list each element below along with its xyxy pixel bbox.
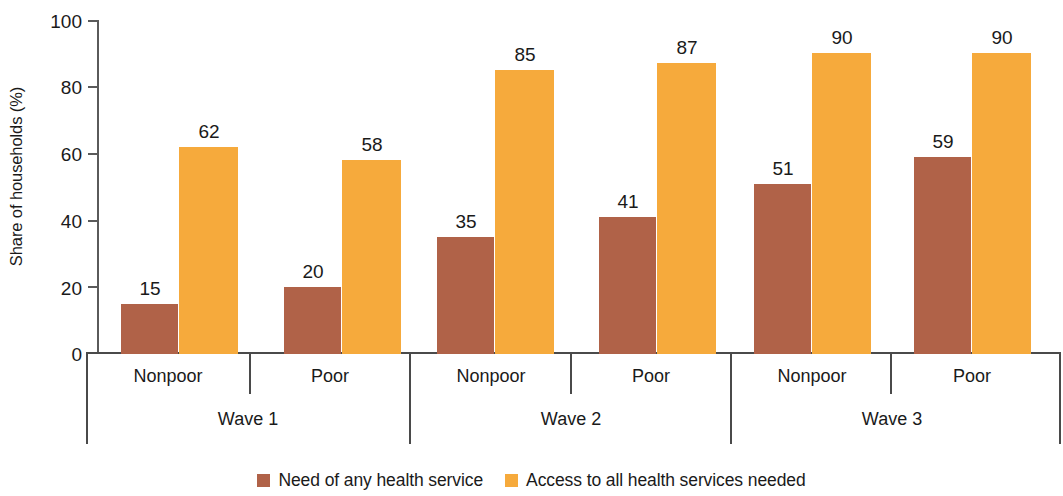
- bar-label-access-wave2-nonpoor: 85: [495, 45, 555, 64]
- category-label-wave2-poor: Poor: [571, 367, 731, 385]
- y-axis-tick-80: [88, 86, 98, 88]
- category-axis: Nonpoor Poor Nonpoor Poor Nonpoor Poor W…: [0, 354, 1063, 454]
- bar-label-need-wave1-poor: 20: [283, 262, 343, 281]
- y-axis-tick-20: [88, 286, 98, 288]
- bar-label-need-wave2-poor: 41: [598, 192, 658, 211]
- wave-label-2: Wave 2: [411, 410, 731, 428]
- bar-access-wave3-poor[interactable]: [972, 53, 1031, 354]
- y-axis-title-text: Share of households (%): [8, 87, 27, 266]
- bar-group-wave3-nonpoor: 51 90: [754, 20, 894, 354]
- legend-item-access: Access to all health services needed: [505, 470, 805, 491]
- bar-access-wave1-nonpoor[interactable]: [179, 147, 238, 354]
- legend-swatch-access-icon: [505, 474, 518, 487]
- bar-access-wave2-poor[interactable]: [657, 63, 716, 354]
- bar-need-wave1-nonpoor[interactable]: [121, 304, 178, 354]
- category-label-wave2-nonpoor: Nonpoor: [411, 367, 571, 385]
- bar-label-access-wave3-poor: 90: [972, 28, 1032, 47]
- legend-label-access: Access to all health services needed: [526, 470, 805, 491]
- category-label-wave3-poor: Poor: [892, 367, 1052, 385]
- bar-access-wave3-nonpoor[interactable]: [812, 53, 871, 354]
- bar-label-access-wave2-poor: 87: [657, 38, 717, 57]
- y-tick-label-40: 40: [36, 212, 82, 231]
- legend-label-need: Need of any health service: [278, 470, 483, 491]
- bar-label-access-wave3-nonpoor: 90: [812, 28, 872, 47]
- legend-item-need: Need of any health service: [257, 470, 483, 491]
- category-label-wave3-nonpoor: Nonpoor: [732, 367, 892, 385]
- plot-area: 15 62 20 58 35 85 41 87 51: [99, 20, 1059, 354]
- bar-label-need-wave2-nonpoor: 35: [436, 212, 496, 231]
- wave-separator-right: [1059, 354, 1061, 444]
- bar-need-wave2-nonpoor[interactable]: [437, 237, 494, 354]
- bar-access-wave1-poor[interactable]: [342, 160, 401, 354]
- y-axis-tick-40: [88, 220, 98, 222]
- bar-group-wave3-poor: 59 90: [914, 20, 1054, 354]
- wave-label-3: Wave 3: [732, 410, 1052, 428]
- y-tick-label-100: 100: [36, 12, 82, 31]
- chart-legend: Need of any health service Access to all…: [0, 464, 1063, 496]
- bar-label-need-wave3-poor: 59: [913, 132, 973, 151]
- y-axis-tick-60: [88, 153, 98, 155]
- bar-label-access-wave1-poor: 58: [342, 135, 402, 154]
- y-tick-label-60: 60: [36, 145, 82, 164]
- bar-need-wave3-poor[interactable]: [914, 157, 971, 354]
- y-tick-label-20: 20: [36, 279, 82, 298]
- wave-label-1: Wave 1: [88, 410, 408, 428]
- y-axis-tick-labels: 100 80 60 40 20 0: [32, 0, 82, 353]
- bar-access-wave2-nonpoor[interactable]: [495, 70, 554, 354]
- bar-need-wave2-poor[interactable]: [599, 217, 656, 354]
- bar-group-wave2-poor: 41 87: [599, 20, 739, 354]
- y-axis-tick-100: [88, 20, 98, 22]
- bar-label-access-wave1-nonpoor: 62: [179, 122, 239, 141]
- bar-group-wave1-poor: 20 58: [284, 20, 424, 354]
- bar-need-wave3-nonpoor[interactable]: [754, 184, 811, 354]
- y-axis-title: Share of households (%): [0, 0, 34, 353]
- bar-chart: Share of households (%) 100 80 60 40 20 …: [0, 0, 1063, 496]
- bar-need-wave1-poor[interactable]: [284, 287, 341, 354]
- bar-group-wave1-nonpoor: 15 62: [121, 20, 261, 354]
- bar-group-wave2-nonpoor: 35 85: [437, 20, 577, 354]
- bar-label-need-wave3-nonpoor: 51: [753, 159, 813, 178]
- bar-label-need-wave1-nonpoor: 15: [120, 279, 180, 298]
- y-tick-label-80: 80: [36, 78, 82, 97]
- category-label-wave1-nonpoor: Nonpoor: [88, 367, 248, 385]
- category-label-wave1-poor: Poor: [250, 367, 410, 385]
- legend-swatch-need-icon: [257, 474, 270, 487]
